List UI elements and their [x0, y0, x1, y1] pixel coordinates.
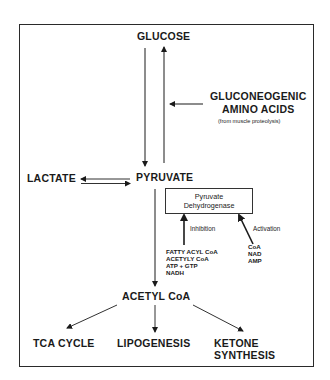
enzyme-name-line1: Pyruvate — [195, 192, 223, 201]
node-synthesis: SYNTHESIS — [214, 350, 275, 361]
enzyme-box-pyruvate-dehydrogenase: Pyruvate Dehydrogenase — [165, 188, 253, 214]
node-gluconeogenic: GLUCONEOGENIC — [210, 91, 307, 102]
node-lipogenesis: LIPOGENESIS — [117, 338, 190, 349]
activator-item: CoA — [248, 243, 262, 250]
inhibitor-item: ATP + GTP — [166, 262, 218, 269]
node-tca-cycle: TCA CYCLE — [33, 338, 95, 349]
node-pyruvate: PYRUVATE — [136, 172, 193, 183]
inhibitor-item: NADH — [166, 269, 218, 276]
inhibitor-item: ACETYLY CoA — [166, 255, 218, 262]
enzyme-name-line2: Dehydrogenase — [184, 201, 235, 210]
inhibition-label: Inhibition — [190, 226, 215, 232]
inhibitor-list: FATTY ACYL CoA ACETYLY CoA ATP + GTP NAD… — [166, 248, 218, 276]
node-amino-acids: AMINO ACIDS — [222, 104, 294, 115]
inhibitor-item: FATTY ACYL CoA — [166, 248, 218, 255]
activator-item: AMP — [248, 257, 262, 264]
node-lactate: LACTATE — [27, 173, 76, 184]
node-ketone: KETONE — [214, 338, 259, 349]
node-glucose: GLUCOSE — [137, 31, 190, 42]
activation-label: Activation — [253, 226, 280, 232]
activator-item: NAD — [248, 250, 262, 257]
gluconeogenic-note: (from muscle proteolysis) — [218, 119, 280, 125]
node-acetyl-coa: ACETYL CoA — [122, 291, 190, 302]
activator-list: CoA NAD AMP — [248, 243, 262, 264]
